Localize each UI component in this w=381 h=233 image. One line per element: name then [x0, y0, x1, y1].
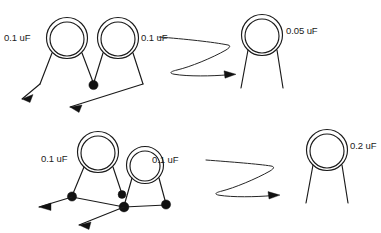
lead-bottom-left-a [72, 167, 84, 196]
capacitor-symbol-top-mid [98, 18, 139, 59]
bottom-result-circuit-group [306, 130, 348, 204]
bus-wire-bottom-right [124, 205, 166, 207]
lead-top-left-b [82, 53, 93, 82]
capacitor-symbol-top-result [242, 15, 283, 56]
top-result-circuit-group [241, 15, 283, 89]
bus-wire-bottom [72, 197, 124, 207]
junction-dot-bottom-2 [118, 191, 126, 199]
junction-dot-top [89, 80, 98, 89]
circuit-diagram-svg [0, 0, 381, 233]
arrowhead-bottom-1 [39, 203, 51, 211]
lead-top-result-b [277, 50, 283, 88]
lead-bottom-result-b [342, 165, 348, 203]
equivalence-arrow-top [159, 37, 236, 78]
label-capacitor-top-result: 0.05 uF [286, 26, 318, 36]
label-capacitor-top-mid: 0.1 uF [141, 33, 167, 43]
capacitor-symbol-bottom-result [307, 130, 348, 171]
label-capacitor-bottom-left: 0.1 uF [41, 154, 67, 164]
diagram-canvas: 0.1 uF 0.1 uF 0.05 uF 0.1 uF 0.1 uF 0.2 … [0, 0, 381, 233]
output-wire-top-2 [70, 84, 143, 107]
lead-top-result-a [241, 50, 248, 88]
bottom-left-circuit-group [39, 132, 171, 230]
arrowhead-equivalence-top [224, 71, 236, 78]
arrowhead-top-1 [22, 95, 33, 103]
equivalence-arrow-bottom [206, 160, 280, 199]
junction-dot-bottom-4 [161, 200, 170, 209]
arrow-squiggle-top-path [159, 37, 230, 76]
lead-bottom-left-b [113, 167, 122, 194]
lead-top-mid-b [133, 53, 143, 84]
lead-top-mid-a [94, 53, 103, 82]
arrow-squiggle-bottom-path [206, 160, 274, 197]
label-capacitor-bottom-result: 0.2 uF [350, 141, 376, 151]
label-capacitor-bottom-right: 0.1 uF [152, 155, 178, 165]
label-capacitor-top-left: 0.1 uF [4, 33, 30, 43]
capacitor-symbol-top-left [47, 18, 88, 59]
capacitor-symbol-bottom-left [78, 132, 119, 173]
lead-bottom-result-a [306, 165, 313, 203]
output-wire-bottom-2 [79, 207, 124, 225]
arrowhead-equivalence-bottom [268, 192, 280, 199]
top-left-circuit-group [22, 18, 143, 113]
lead-top-left-a [40, 53, 52, 84]
